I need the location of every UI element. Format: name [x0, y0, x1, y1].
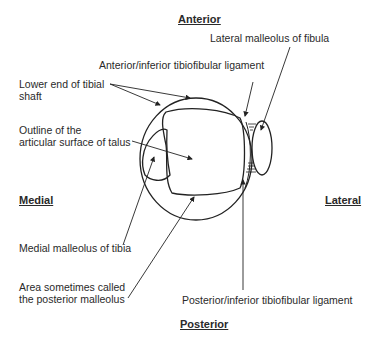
label-tibial-shaft-2: shaft	[19, 90, 42, 102]
talus-articular-outline	[163, 109, 245, 195]
label-anterior-ligament: Anterior/inferior tibiofibular ligament	[99, 59, 264, 71]
label-medial-malleolus: Medial malleolus of tibia	[19, 242, 131, 254]
direction-anterior: Anterior	[178, 13, 221, 25]
label-lateral-malleolus: Lateral malleolus of fibula	[210, 32, 329, 44]
direction-medial: Medial	[19, 194, 53, 206]
label-talus-2: articular surface of talus	[19, 136, 130, 148]
label-tibial-shaft-1: Lower end of tibial	[19, 78, 104, 90]
label-talus-1: Outline of the	[19, 124, 81, 136]
label-posterior-malleolus-2: the posterior malleolus	[19, 293, 125, 305]
direction-posterior: Posterior	[180, 318, 228, 330]
label-posterior-malleolus-1: Area sometimes called	[19, 281, 125, 293]
direction-lateral: Lateral	[325, 194, 361, 206]
medial-malleolus-outline	[143, 129, 170, 180]
label-posterior-ligament: Posterior/inferior tibiofibular ligament	[182, 294, 352, 306]
fibula-outline	[252, 121, 272, 175]
